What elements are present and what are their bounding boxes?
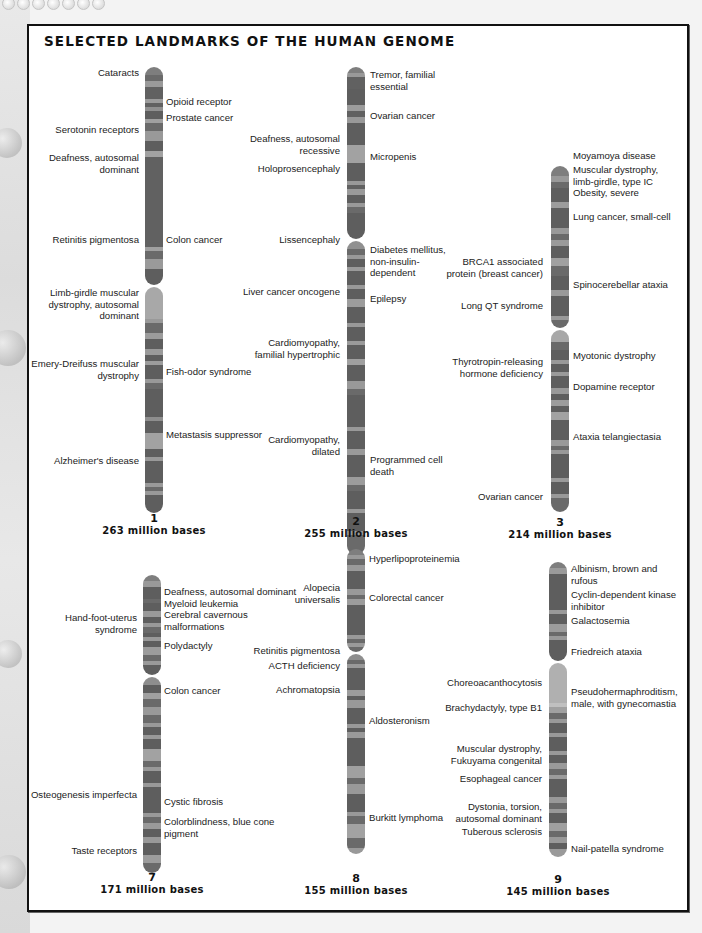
chromosome-caption: 8 155 million bases	[276, 873, 436, 897]
gene-label: Colon cancer	[164, 685, 221, 697]
gene-label: Cataracts	[98, 67, 139, 79]
chromosome-caption: 1 263 million bases	[74, 513, 234, 537]
gene-label: Pseudohermaphroditism, male, with gyneco…	[571, 686, 678, 709]
gene-label: Hyperlipoproteinemia	[369, 553, 460, 565]
gene-label: Deafness, autosomal recessive	[250, 133, 340, 156]
gene-label: Polydactyly	[164, 640, 213, 652]
gene-label: Hand-foot-uterus syndrome	[65, 612, 137, 635]
gene-label: Myotonic dystrophy	[573, 350, 656, 362]
chromosome-number: 9	[478, 874, 638, 886]
chromosome-arm-q	[549, 663, 567, 857]
gene-label: Esophageal cancer	[460, 773, 542, 785]
chromosome-arm-q	[145, 287, 163, 513]
gene-label: Nail-patella syndrome	[571, 843, 664, 855]
gene-label: Lissencephaly	[279, 234, 340, 246]
gene-label: Diabetes mellitus, non-insulin- dependen…	[370, 244, 446, 279]
chromosome-arm-q	[551, 330, 569, 512]
gene-label: Cardiomyopathy, dilated	[268, 434, 340, 457]
chromosome-number: 3	[480, 517, 640, 529]
chromosome-arm-p	[347, 67, 365, 239]
gene-label: Tremor, familial essential	[370, 69, 435, 92]
gene-label: Spinocerebellar ataxia	[573, 279, 668, 291]
gene-label: Metastasis suppressor	[166, 429, 262, 441]
chromosome-size: 171 million bases	[72, 884, 232, 896]
chromosome-caption: 9 145 million bases	[478, 874, 638, 898]
gene-label: Colorblindness, blue cone pigment	[164, 816, 274, 839]
gene-label: Friedreich ataxia	[571, 646, 642, 658]
chromosome-arm-p	[145, 67, 163, 285]
gene-label: Colorectal cancer	[369, 592, 444, 604]
gene-label: Myeloid leukemia	[164, 598, 238, 610]
gene-label: Dystonia, torsion, autosomal dominant	[456, 801, 542, 824]
gene-label: Lung cancer, small-cell	[573, 211, 671, 223]
background-dots-decoration	[0, 0, 110, 16]
gene-label: Serotonin receptors	[55, 124, 139, 136]
gene-label: Deafness, autosomal dominant	[164, 586, 296, 598]
chromosome-arm-p	[347, 549, 365, 652]
gene-label: Colon cancer	[166, 234, 223, 246]
gene-label: Obesity, severe	[573, 187, 639, 199]
gene-label: Choreoacanthocytosis	[447, 677, 542, 689]
gene-label: Ovarian cancer	[370, 110, 435, 122]
gene-label: Osteogenesis imperfecta	[31, 789, 137, 801]
gene-label: Thyrotropin-releasing hormone deficiency	[452, 356, 543, 379]
gene-label: Tuberous sclerosis	[462, 826, 542, 838]
gene-label: Cardiomyopathy, familial hypertrophic	[255, 337, 340, 360]
gene-label: Long QT syndrome	[461, 300, 543, 312]
gene-label: Burkitt lymphoma	[369, 812, 443, 824]
gene-label: Dopamine receptor	[573, 381, 655, 393]
chromosome-size: 155 million bases	[276, 885, 436, 897]
chromosome-arm-q	[143, 677, 161, 873]
gene-label: Galactosemia	[571, 615, 630, 627]
chromosome-caption: 2 255 million bases	[276, 516, 436, 540]
gene-label: Holoprosencephaly	[258, 163, 340, 175]
gene-label: Liver cancer oncogene	[243, 286, 340, 298]
gene-label: Ovarian cancer	[478, 491, 543, 503]
gene-label: Cyclin-dependent kinase inhibitor	[571, 589, 676, 612]
gene-label: BRCA1 associated protein (breast cancer)	[446, 256, 543, 279]
chromosome-arm-p	[551, 166, 569, 328]
gene-label: Alopecia universalis	[295, 582, 340, 605]
gene-label: Micropenis	[370, 151, 416, 163]
gene-label: Muscular dystrophy, Fukuyama congenital	[451, 743, 542, 766]
gene-label: ACTH deficiency	[269, 660, 340, 672]
chromosome-number: 2	[276, 516, 436, 528]
gene-label: Taste receptors	[71, 845, 137, 857]
chromosome-caption: 7 171 million bases	[72, 872, 232, 896]
chromosome-size: 255 million bases	[276, 528, 436, 540]
gene-label: Prostate cancer	[166, 112, 233, 124]
chromosome-number: 8	[276, 873, 436, 885]
gene-label: Emery-Dreifuss muscular dystrophy	[31, 358, 139, 381]
gene-label: Brachydactyly, type B1	[445, 702, 542, 714]
gene-label: Aldosteronism	[369, 715, 430, 727]
chromosome-arm-p	[143, 575, 161, 675]
gene-label: Cystic fibrosis	[164, 796, 223, 808]
gene-label: Deafness, autosomal dominant	[49, 152, 139, 175]
chromosome-arm-q	[347, 241, 365, 555]
gene-label: Programmed cell death	[370, 454, 443, 477]
chromosome-number: 1	[74, 513, 234, 525]
gene-label: Albinism, brown and rufous	[571, 563, 657, 586]
gene-label: Alzheimer's disease	[54, 455, 139, 467]
chromosome-size: 214 million bases	[480, 529, 640, 541]
chromosome-arm-q	[347, 654, 365, 854]
chromosome-size: 263 million bases	[74, 525, 234, 537]
gene-label: Achromatopsia	[276, 684, 340, 696]
gene-label: Muscular dystrophy, limb-girdle, type IC	[573, 164, 658, 187]
gene-label: Retinitis pigmentosa	[254, 645, 340, 657]
figure-title: SELECTED LANDMARKS OF THE HUMAN GENOME	[44, 33, 455, 49]
chromosome-caption: 3 214 million bases	[480, 517, 640, 541]
gene-label: Cerebral cavernous malformations	[164, 609, 248, 632]
chromosome-number: 7	[72, 872, 232, 884]
chromosome-size: 145 million bases	[478, 886, 638, 898]
gene-label: Ataxia telangiectasia	[573, 431, 661, 443]
gene-label: Opioid receptor	[166, 96, 232, 108]
gene-label: Limb-girdle muscular dystrophy, autosoma…	[49, 287, 139, 322]
gene-label: Epilepsy	[370, 293, 406, 305]
gene-label: Fish-odor syndrome	[166, 366, 251, 378]
gene-label: Moyamoya disease	[573, 150, 656, 162]
gene-label: Retinitis pigmentosa	[53, 234, 139, 246]
chromosome-arm-p	[549, 562, 567, 661]
